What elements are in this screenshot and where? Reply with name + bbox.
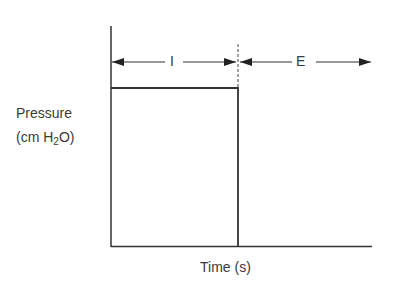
y-axis-label-line2: (cm H2O) (16, 125, 74, 149)
y-axis-label-line1: Pressure (16, 101, 74, 125)
pressure-waveform (111, 88, 238, 247)
x-axis-label: Time (s) (200, 259, 251, 275)
inspiration-label: I (167, 53, 177, 69)
y-axis-label: Pressure (cm H2O) (16, 101, 74, 149)
y-axis-unit-suffix: O) (59, 129, 75, 145)
expiration-label: E (293, 53, 308, 69)
y-axis-unit-prefix: (cm H (16, 129, 53, 145)
